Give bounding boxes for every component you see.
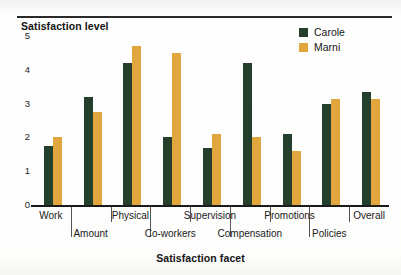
y-axis-tick-4: 4: [17, 65, 30, 75]
bar-marni-work: [53, 137, 62, 205]
x-axis-label-physical: Physical: [85, 210, 175, 221]
bar-group-co-workers: [163, 36, 181, 205]
bar-group-promotions: [283, 36, 301, 205]
bar-group-overall: [362, 36, 380, 205]
bar-marni-policies: [331, 99, 340, 205]
bar-carole-amount: [84, 97, 93, 205]
bar-carole-co-workers: [163, 137, 172, 205]
x-axis-label-policies: Policies: [284, 228, 374, 239]
x-axis-label-compensation: Compensation: [205, 228, 295, 239]
bar-group-compensation: [243, 36, 261, 205]
bar-carole-promotions: [283, 134, 292, 205]
x-axis-title: Satisfaction facet: [0, 252, 401, 264]
bar-carole-policies: [322, 104, 331, 205]
y-axis-tick-2: 2: [17, 132, 30, 142]
x-axis-label-co-workers: Co-workers: [125, 228, 215, 239]
plot-area: [31, 36, 389, 205]
bar-group-supervision: [203, 36, 221, 205]
top-rule-divider: [17, 16, 392, 18]
bar-group-amount: [84, 36, 102, 205]
bar-carole-overall: [362, 92, 371, 205]
bar-carole-compensation: [243, 63, 252, 205]
x-axis-label-amount: Amount: [46, 228, 136, 239]
bar-marni-amount: [93, 112, 102, 205]
x-axis-label-overall: Overall: [324, 210, 401, 221]
bar-marni-overall: [371, 99, 380, 205]
bar-group-physical: [123, 36, 141, 205]
bar-carole-supervision: [203, 148, 212, 205]
bar-marni-co-workers: [172, 53, 181, 205]
bar-carole-physical: [123, 63, 132, 205]
y-axis-tick-3: 3: [17, 99, 30, 109]
y-axis-tick-1: 1: [17, 166, 30, 176]
bar-group-work: [44, 36, 62, 205]
x-axis-baseline: [31, 205, 389, 207]
bar-carole-work: [44, 146, 53, 205]
x-axis-label-work: Work: [6, 210, 96, 221]
satisfaction-bar-chart: Satisfaction level CaroleMarni Satisfact…: [0, 0, 401, 275]
y-axis-title: Satisfaction level: [21, 20, 109, 32]
bar-group-policies: [322, 36, 340, 205]
bar-marni-supervision: [212, 134, 221, 205]
y-axis-tick-0: 0: [17, 200, 30, 210]
bar-marni-promotions: [292, 151, 301, 205]
x-axis-label-supervision: Supervision: [165, 210, 255, 221]
x-axis-label-promotions: Promotions: [245, 210, 335, 221]
y-axis-tick-5: 5: [17, 31, 30, 41]
bar-marni-physical: [132, 46, 141, 205]
bar-marni-compensation: [252, 137, 261, 205]
